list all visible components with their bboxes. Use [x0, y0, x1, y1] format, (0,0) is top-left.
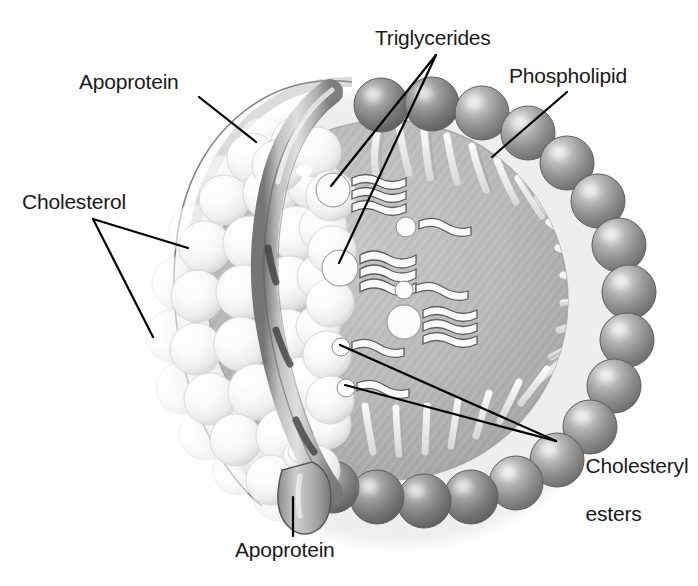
label-cholesterol: Cholesterol [22, 190, 126, 214]
cholesterol-sphere [171, 270, 223, 322]
phospholipid-head [592, 218, 646, 272]
cholesterol-sphere [210, 414, 262, 466]
label-apoprotein-bottom: Apoprotein [235, 538, 335, 562]
label-cholesteryl-esters: Cholesteryl esters [563, 430, 688, 550]
label-triglycerides: Triglycerides [375, 26, 491, 50]
label-phospholipid: Phospholipid [509, 64, 627, 88]
label-cholesteryl-esters-line2: esters [586, 502, 642, 525]
phospholipid-head [397, 474, 451, 528]
apoprotein-bulb [278, 462, 331, 534]
figure-canvas: Apoprotein Cholesterol Triglycerides Pho… [0, 0, 698, 586]
phospholipid-head [444, 470, 498, 524]
leader-cholesterol-b [93, 219, 153, 337]
phospholipid-head [350, 470, 404, 524]
cholesterol-sphere [306, 279, 354, 327]
phospholipid-head [602, 265, 656, 319]
phospholipid-head [600, 313, 654, 367]
label-apoprotein-top: Apoprotein [79, 70, 179, 94]
label-cholesteryl-esters-line1: Cholesteryl [586, 454, 689, 477]
